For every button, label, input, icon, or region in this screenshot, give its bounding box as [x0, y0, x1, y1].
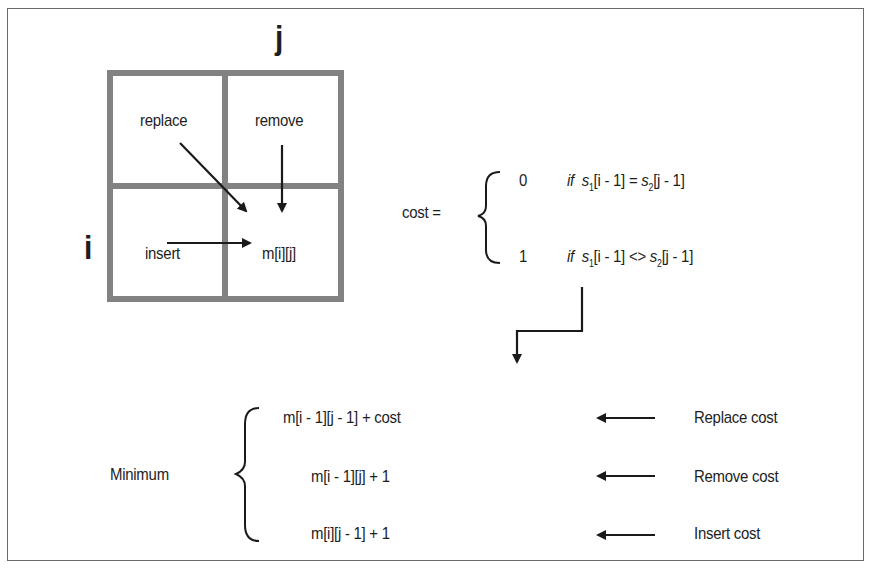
replace-arrow	[180, 143, 246, 211]
elbow-arrow	[517, 287, 582, 362]
cell-target: m[i][j]	[262, 244, 296, 264]
cell-remove: remove	[255, 111, 303, 131]
min-term-replace: m[i - 1][j - 1] + cost	[283, 408, 401, 428]
col-label-j: j	[275, 18, 283, 57]
cost-case-0-value: 0	[519, 171, 527, 191]
dp-grid	[110, 73, 341, 299]
cell-insert: insert	[145, 244, 180, 264]
cost-case-0-condition: if s1[i - 1] = s2[j - 1]	[567, 171, 685, 193]
min-term-remove: m[i - 1][j] + 1	[311, 467, 390, 487]
minimum-brace	[236, 408, 259, 541]
annotation-arrows	[598, 418, 655, 535]
cost-case-1-condition: if s1[i - 1] <> s2[j - 1]	[567, 247, 693, 269]
annotation-insert-cost: Insert cost	[694, 524, 760, 544]
cost-case-1-value: 1	[519, 247, 527, 267]
cost-brace	[478, 172, 500, 263]
minimum-label: Minimum	[110, 465, 169, 485]
annotation-remove-cost: Remove cost	[694, 467, 778, 487]
min-term-insert: m[i][j - 1] + 1	[311, 524, 390, 544]
row-label-i: i	[84, 228, 92, 267]
cell-replace: replace	[140, 111, 187, 131]
cost-lhs: cost =	[402, 203, 441, 223]
annotation-replace-cost: Replace cost	[694, 408, 777, 428]
